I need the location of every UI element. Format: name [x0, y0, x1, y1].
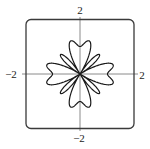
polar-graph: 2 −2 −2 2: [0, 0, 150, 149]
y-min-label: −2: [73, 132, 85, 144]
y-max-label: 2: [77, 4, 83, 16]
x-max-label: 2: [139, 69, 145, 81]
x-min-label: −2: [5, 68, 17, 80]
